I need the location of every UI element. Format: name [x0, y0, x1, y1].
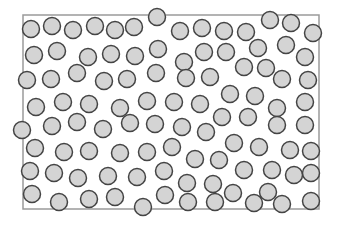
particle-circle — [112, 100, 129, 117]
particle-circle — [27, 140, 44, 157]
particle-circle — [156, 163, 173, 180]
particle-circle — [192, 96, 209, 113]
particle-circle — [236, 59, 253, 76]
particle-circle — [147, 116, 164, 133]
particle-circle — [49, 43, 66, 60]
particle-circle — [122, 115, 139, 132]
particle-circle — [81, 96, 98, 113]
particle-circle — [305, 25, 322, 42]
particle-circle — [119, 71, 136, 88]
particle-circle — [211, 152, 228, 169]
particle-circle — [65, 22, 82, 39]
particle-circle — [126, 19, 143, 36]
particle-circle — [148, 65, 165, 82]
particle-circle — [187, 151, 204, 168]
particle-circle — [164, 139, 181, 156]
particle-circle — [172, 23, 189, 40]
particle-circle — [180, 194, 197, 211]
particle-circle — [238, 24, 255, 41]
particle-diagram — [0, 0, 337, 227]
particle-circle — [107, 22, 124, 39]
particle-circle — [297, 117, 314, 134]
particle-circle — [157, 187, 174, 204]
particle-circle — [127, 48, 144, 65]
particle-circle — [139, 93, 156, 110]
particle-circle — [24, 186, 41, 203]
particles-group — [14, 9, 322, 216]
particle-circle — [300, 72, 317, 89]
particle-circle — [55, 94, 72, 111]
particle-circle — [81, 143, 98, 160]
particle-circle — [194, 20, 211, 37]
particle-circle — [226, 135, 243, 152]
particle-circle — [274, 71, 291, 88]
particle-circle — [44, 118, 61, 135]
particle-circle — [236, 162, 253, 179]
particle-circle — [51, 194, 68, 211]
particle-circle — [198, 124, 215, 141]
particle-circle — [135, 199, 152, 216]
particle-circle — [196, 44, 213, 61]
particle-circle — [303, 143, 320, 160]
particle-circle — [46, 165, 63, 182]
particle-circle — [149, 9, 166, 26]
particle-circle — [283, 15, 300, 32]
particle-circle — [80, 49, 97, 66]
particle-circle — [247, 88, 264, 105]
particle-circle — [222, 86, 239, 103]
particle-circle — [22, 163, 39, 180]
particle-circle — [179, 175, 196, 192]
particle-circle — [139, 144, 156, 161]
particle-circle — [96, 73, 113, 90]
particle-circle — [260, 184, 277, 201]
particle-circle — [81, 191, 98, 208]
particle-circle — [303, 193, 320, 210]
particle-circle — [207, 194, 224, 211]
particle-circle — [103, 46, 120, 63]
particle-circle — [28, 99, 45, 116]
particle-circle — [251, 139, 268, 156]
particle-circle — [303, 165, 320, 182]
particle-circle — [205, 176, 222, 193]
particle-circle — [14, 122, 31, 139]
particle-circle — [286, 167, 303, 184]
particle-circle — [250, 40, 267, 57]
particle-circle — [297, 49, 314, 66]
particle-circle — [44, 18, 61, 35]
particle-circle — [174, 119, 191, 136]
particle-circle — [69, 65, 86, 82]
particle-circle — [19, 72, 36, 89]
particle-circle — [43, 71, 60, 88]
particle-circle — [26, 47, 43, 64]
particle-circle — [214, 109, 231, 126]
particle-circle — [23, 21, 40, 38]
particle-circle — [166, 94, 183, 111]
particle-circle — [100, 168, 117, 185]
particle-circle — [264, 162, 281, 179]
particle-circle — [269, 100, 286, 117]
particle-circle — [218, 44, 235, 61]
particle-circle — [129, 169, 146, 186]
particle-circle — [150, 41, 167, 58]
particle-circle — [258, 60, 275, 77]
particle-circle — [70, 170, 87, 187]
particle-circle — [269, 117, 286, 134]
particle-circle — [274, 196, 291, 213]
particle-circle — [176, 54, 193, 71]
particle-circle — [87, 18, 104, 35]
particle-circle — [216, 23, 233, 40]
diagram-canvas — [0, 0, 337, 227]
particle-circle — [107, 189, 124, 206]
particle-circle — [112, 145, 129, 162]
particle-circle — [95, 121, 112, 138]
particle-circle — [56, 144, 73, 161]
particle-circle — [278, 37, 295, 54]
particle-circle — [69, 114, 86, 131]
particle-circle — [202, 69, 219, 86]
particle-circle — [282, 142, 299, 159]
particle-circle — [297, 94, 314, 111]
particle-circle — [240, 109, 257, 126]
particle-circle — [262, 12, 279, 29]
particle-circle — [178, 70, 195, 87]
particle-circle — [246, 195, 263, 212]
